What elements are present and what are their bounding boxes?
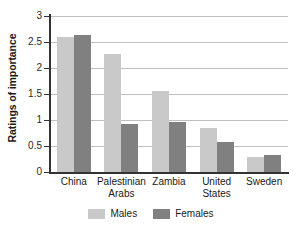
x-axis-tick-label: Sweden (236, 176, 292, 188)
legend-item-males[interactable]: Males (88, 209, 137, 219)
bar-group (104, 16, 138, 172)
bar-females-united-states (217, 142, 234, 172)
y-axis-tick-mark (44, 42, 50, 43)
bar-males-china (57, 37, 74, 172)
bar-males-united-states (200, 128, 217, 172)
y-axis-tick-mark (44, 172, 50, 173)
y-axis-tick-label: 3 (0, 11, 42, 21)
y-axis-tick-label: 2.5 (0, 37, 42, 47)
bar-males-zambia (152, 91, 169, 172)
bar-chart: Ratings of importance 00.511.522.53 Chin… (0, 0, 302, 233)
y-axis-tick-mark (44, 146, 50, 147)
bar-group (247, 16, 281, 172)
bar-males-sweden (247, 157, 264, 172)
x-axis-tick-labels: ChinaPalestinianArabsZambiaUnitedStatesS… (50, 176, 288, 206)
y-axis-tick-labels: 00.511.522.53 (0, 0, 42, 180)
bar-group (152, 16, 186, 172)
bar-group (200, 16, 234, 172)
bar-females-sweden (264, 155, 281, 172)
y-axis-tick-label: 1.5 (0, 89, 42, 99)
y-axis-tick-mark (44, 68, 50, 69)
legend-label: Males (110, 209, 137, 219)
y-axis-tick-mark (44, 120, 50, 121)
bar-males-palestinian-arabs (104, 54, 121, 172)
legend-swatch-icon (153, 209, 170, 219)
y-axis-tick-label: 0.5 (0, 141, 42, 151)
y-axis-tick-label: 2 (0, 63, 42, 73)
y-axis-tick-label: 0 (0, 167, 42, 177)
chart-legend: MalesFemales (0, 209, 302, 219)
bar-females-palestinian-arabs (121, 124, 138, 172)
bar-group (57, 16, 91, 172)
legend-item-females[interactable]: Females (153, 209, 213, 219)
legend-label: Females (175, 209, 213, 219)
y-axis-tick-mark (44, 16, 50, 17)
bar-females-china (74, 35, 91, 172)
x-axis-line (49, 172, 289, 174)
y-axis-tick-mark (44, 94, 50, 95)
bars-layer (50, 16, 288, 172)
bar-females-zambia (169, 122, 186, 172)
legend-swatch-icon (88, 209, 105, 219)
y-axis-tick-label: 1 (0, 115, 42, 125)
